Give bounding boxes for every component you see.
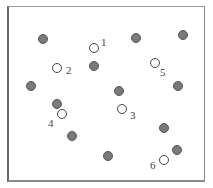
filled-point	[67, 131, 77, 141]
point-label: 6	[150, 160, 156, 171]
open-point-1	[89, 43, 99, 53]
open-point-2	[52, 63, 62, 73]
point-label: 3	[130, 110, 136, 121]
open-point-6	[159, 155, 169, 165]
filled-point	[173, 81, 183, 91]
filled-point	[26, 81, 36, 91]
filled-point	[114, 86, 124, 96]
point-label: 1	[101, 37, 107, 48]
filled-point	[159, 123, 169, 133]
point-label: 5	[160, 67, 166, 78]
filled-point	[52, 99, 62, 109]
diagram-canvas: 123456	[0, 0, 213, 188]
filled-point	[38, 34, 48, 44]
point-label: 4	[48, 118, 54, 129]
open-point-5	[150, 58, 160, 68]
filled-point	[178, 30, 188, 40]
filled-point	[103, 151, 113, 161]
open-point-3	[117, 104, 127, 114]
filled-point	[89, 61, 99, 71]
filled-point	[131, 33, 141, 43]
point-label: 2	[66, 65, 72, 76]
open-point-4	[57, 109, 67, 119]
filled-point	[172, 145, 182, 155]
